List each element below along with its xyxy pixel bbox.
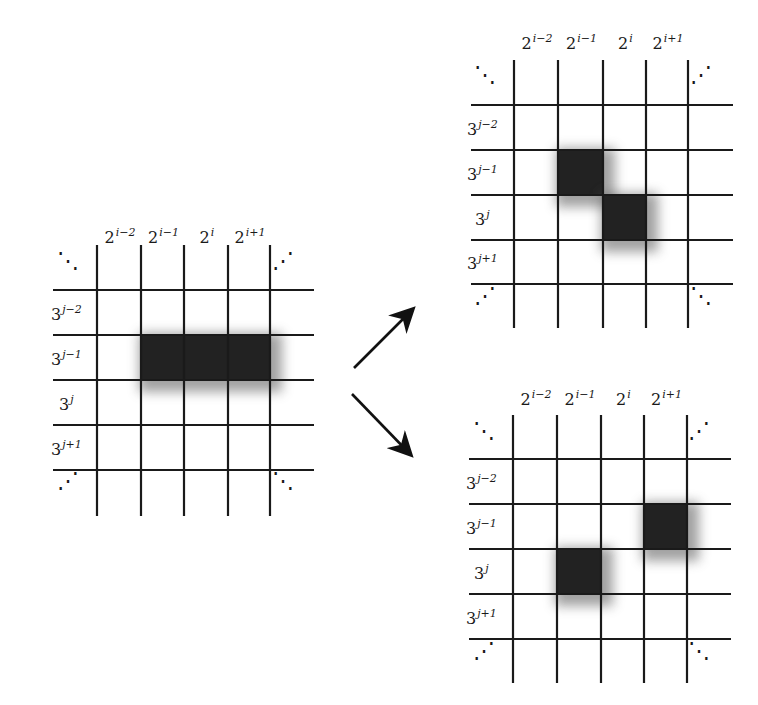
filled-block — [557, 549, 601, 594]
ellipsis-icon: ⋱ — [688, 640, 710, 662]
ellipsis-icon: ⋰ — [688, 420, 710, 442]
row-label: 3j−2 — [467, 122, 498, 140]
row-label-exponent: j−1 — [478, 163, 498, 176]
row-label-exponent: j — [70, 393, 73, 406]
column-label-exponent: i−2 — [532, 388, 552, 401]
column-label: 2i−2 — [522, 36, 553, 54]
column-label: 2i−1 — [565, 392, 596, 410]
column-label-base: 2 — [653, 34, 663, 53]
row-label-exponent: j−1 — [477, 517, 497, 530]
arrow-down-icon — [352, 394, 410, 454]
ellipsis-icon: ⋰ — [690, 64, 712, 86]
diagram-svg — [0, 0, 758, 705]
arrow-up-icon — [354, 310, 412, 368]
column-label-base: 2 — [565, 390, 575, 409]
row-label: 3j−1 — [467, 167, 498, 185]
column-label-exponent: i−1 — [159, 226, 179, 239]
row-label: 3j — [474, 566, 489, 584]
column-label: 2i−1 — [566, 36, 597, 54]
row-label-base: 3 — [51, 440, 61, 459]
filled-block — [558, 150, 603, 195]
row-label: 3j+1 — [467, 256, 498, 274]
column-label-exponent: i−2 — [116, 226, 136, 239]
row-label: 3j−2 — [51, 307, 82, 325]
column-label-exponent: i — [627, 388, 631, 401]
row-label-base: 3 — [59, 395, 69, 414]
ellipsis-icon: ⋰ — [57, 470, 79, 492]
column-label: 2i — [618, 36, 633, 54]
row-label-base: 3 — [475, 210, 485, 229]
column-label: 2i−2 — [105, 230, 136, 248]
column-label-exponent: i — [629, 32, 633, 45]
filled-block — [644, 504, 687, 549]
column-label: 2i+1 — [653, 36, 684, 54]
column-label-exponent: i+1 — [662, 388, 682, 401]
ellipsis-icon: ⋰ — [473, 640, 495, 662]
column-label-base: 2 — [521, 390, 531, 409]
ellipsis-icon: ⋱ — [57, 250, 79, 272]
column-label-exponent: i — [211, 226, 215, 239]
column-label-base: 2 — [618, 34, 628, 53]
row-label-exponent: j+1 — [478, 252, 498, 265]
row-label-exponent: j−2 — [62, 303, 82, 316]
column-label-base: 2 — [651, 390, 661, 409]
column-label-base: 2 — [235, 228, 245, 247]
column-label-exponent: i+1 — [664, 32, 684, 45]
column-label-base: 2 — [616, 390, 626, 409]
ellipsis-icon: ⋱ — [473, 420, 495, 442]
ellipsis-icon: ⋰ — [474, 285, 496, 307]
row-label: 3j+1 — [51, 442, 82, 460]
row-label-base: 3 — [474, 564, 484, 583]
column-label-exponent: i+1 — [246, 226, 266, 239]
row-label-exponent: j — [485, 562, 488, 575]
filled-block — [603, 195, 646, 240]
row-label-base: 3 — [467, 254, 477, 273]
row-label: 3j−1 — [51, 352, 82, 370]
row-label-base: 3 — [51, 305, 61, 324]
ellipsis-icon: ⋱ — [690, 285, 712, 307]
column-label-base: 2 — [566, 34, 576, 53]
row-label-exponent: j+1 — [477, 607, 497, 620]
column-label-base: 2 — [148, 228, 158, 247]
row-label: 3j — [59, 397, 74, 415]
diagram-canvas: 2i−22i−12i2i+13j−23j−13j3j+1⋱⋰⋰⋱2i−22i−1… — [0, 0, 758, 705]
row-label: 3j+1 — [466, 611, 497, 629]
column-label: 2i−1 — [148, 230, 179, 248]
column-label: 2i−2 — [521, 392, 552, 410]
column-label-base: 2 — [522, 34, 532, 53]
column-label-exponent: i−1 — [576, 388, 596, 401]
column-label: 2i+1 — [235, 230, 266, 248]
ellipsis-icon: ⋰ — [272, 250, 294, 272]
column-label-exponent: i−2 — [533, 32, 553, 45]
row-label-base: 3 — [51, 350, 61, 369]
row-label-base: 3 — [466, 519, 476, 538]
arrows — [352, 310, 412, 454]
row-label-exponent: j — [486, 208, 489, 221]
column-label: 2i+1 — [651, 392, 682, 410]
row-label-base: 3 — [467, 120, 477, 139]
column-label: 2i — [200, 230, 215, 248]
column-label-base: 2 — [105, 228, 115, 247]
column-label: 2i — [616, 392, 631, 410]
row-label-base: 3 — [466, 474, 476, 493]
row-label-base: 3 — [466, 609, 476, 628]
row-label-exponent: j−2 — [478, 118, 498, 131]
row-label: 3j−2 — [466, 476, 497, 494]
row-label-exponent: j−2 — [477, 472, 497, 485]
row-label-exponent: j+1 — [62, 438, 82, 451]
row-label: 3j−1 — [466, 521, 497, 539]
column-label-base: 2 — [200, 228, 210, 247]
ellipsis-icon: ⋱ — [474, 64, 496, 86]
filled-block — [141, 335, 270, 380]
grid-layer — [53, 60, 733, 683]
row-label: 3j — [475, 212, 490, 230]
row-label-base: 3 — [467, 165, 477, 184]
column-label-exponent: i−1 — [577, 32, 597, 45]
ellipsis-icon: ⋱ — [272, 470, 294, 492]
row-label-exponent: j−1 — [62, 348, 82, 361]
